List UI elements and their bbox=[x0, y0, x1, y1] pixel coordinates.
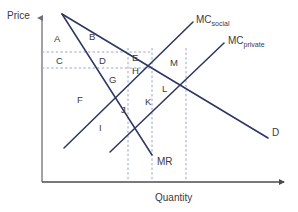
demand-label: D bbox=[272, 128, 279, 138]
mc-private-label: MCprivate bbox=[228, 36, 265, 50]
area-label-l: L bbox=[162, 84, 167, 94]
area-label-d: D bbox=[99, 56, 106, 66]
y-axis-label: Price bbox=[7, 11, 30, 21]
diagram-canvas: Price Quantity MCsocial MCprivate D MR A… bbox=[0, 0, 298, 212]
area-label-j: J bbox=[121, 105, 126, 115]
area-label-k: K bbox=[145, 97, 151, 107]
area-label-i: I bbox=[99, 123, 102, 133]
area-label-b: B bbox=[89, 32, 95, 42]
mc-private-label-sub: private bbox=[244, 41, 265, 48]
mc-private-label-text: MC bbox=[228, 35, 244, 46]
marginal-revenue-curve bbox=[62, 14, 152, 155]
area-label-e: E bbox=[132, 53, 138, 63]
marginal-revenue-label: MR bbox=[157, 157, 173, 167]
area-label-h: H bbox=[132, 66, 139, 76]
area-label-g: G bbox=[109, 75, 116, 85]
area-label-a: A bbox=[54, 34, 60, 44]
mc-social-curve bbox=[64, 22, 193, 148]
area-label-m: M bbox=[170, 58, 178, 68]
x-axis-label: Quantity bbox=[155, 193, 192, 203]
mc-social-label-text: MC bbox=[196, 14, 212, 25]
area-label-f: F bbox=[77, 95, 83, 105]
mc-private-curve bbox=[110, 43, 224, 152]
mc-social-label-sub: social bbox=[212, 20, 230, 27]
area-label-c: C bbox=[56, 56, 63, 66]
mc-social-label: MCsocial bbox=[196, 15, 229, 29]
